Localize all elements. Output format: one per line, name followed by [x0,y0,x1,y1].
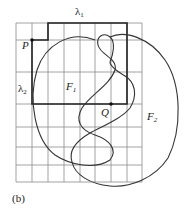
point-p [30,38,34,42]
label-f1: F1 [65,80,76,94]
curve-f2 [71,35,178,187]
caption: (b) [12,192,25,205]
grid [16,23,142,182]
label-lambda2: λ2 [18,82,27,96]
lattice-path-lambda [32,23,127,104]
point-q [109,102,113,106]
label-f2: F2 [146,110,158,124]
label-p: P [21,39,29,51]
label-q: Q [101,106,109,118]
label-lambda1: λ1 [75,5,84,19]
lattice-path-diagram: λ1 λ2 P Q F1 F2 (b) [0,0,187,210]
